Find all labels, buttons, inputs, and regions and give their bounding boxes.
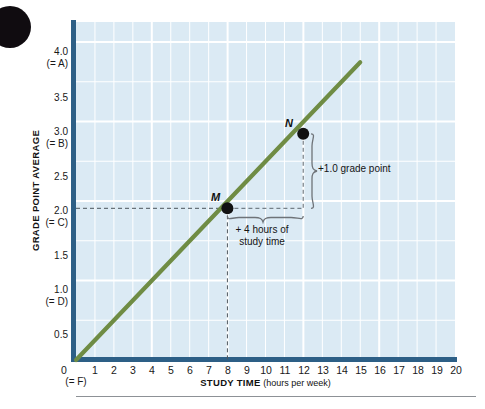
annotation-run-line1: + 4 hours of [235, 224, 288, 235]
brace-rise [311, 134, 317, 209]
footer-divider [76, 396, 476, 397]
annotation-run: + 4 hours of study time [207, 224, 317, 248]
trend-line [76, 62, 360, 360]
annotation-run-line2: study time [239, 236, 285, 247]
data-point-n[interactable] [297, 128, 309, 140]
data-point-m[interactable] [221, 202, 233, 214]
data-point-m-label: M [211, 191, 220, 203]
data-point-n-label: N [285, 117, 293, 129]
annotation-rise: +1.0 grade point [318, 163, 391, 174]
figure-container: 4.0 (= A) 3.5 3.0 (= B) 2.5 2.0 (= C) 1.… [0, 0, 485, 409]
brace-run [227, 216, 303, 222]
data-overlay [0, 0, 485, 409]
